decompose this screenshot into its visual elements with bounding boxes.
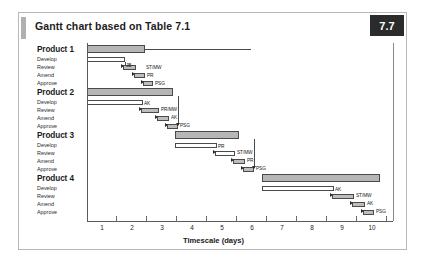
annotation-p3-amend: ST/MW bbox=[237, 150, 253, 155]
task-label-p4-review: Review bbox=[37, 193, 55, 199]
arrow-p2-milestone bbox=[176, 123, 180, 126]
arrow-p4-approve bbox=[361, 209, 364, 213]
x-tick-3 bbox=[176, 216, 177, 222]
arrow-p3-approve bbox=[241, 166, 244, 170]
task-label-p4-approve: Approve bbox=[37, 209, 57, 215]
x-tick-1 bbox=[116, 216, 117, 222]
x-tick-label-10: 10 bbox=[368, 224, 375, 231]
annotation-p2-amend: PR/MW bbox=[161, 107, 177, 112]
arrow-p3-amend bbox=[231, 158, 234, 162]
x-tick-label-7: 7 bbox=[280, 224, 284, 231]
task-label-p3-approve: Approve bbox=[37, 166, 57, 172]
x-tick-label-3: 3 bbox=[160, 224, 164, 231]
gantt-bar-p2-review bbox=[141, 108, 159, 113]
link-p2-vert bbox=[178, 96, 179, 124]
annotation-p2-approve: AK bbox=[171, 115, 177, 120]
annotation-p1-approve: PR bbox=[147, 73, 153, 78]
title-accent-bar bbox=[21, 17, 26, 39]
annotation-p2-end: PSG bbox=[180, 123, 190, 128]
link-p1-summary-right bbox=[145, 49, 251, 50]
x-axis-label: Timescale (days) bbox=[19, 236, 408, 245]
arrow-p4-review bbox=[330, 193, 333, 197]
task-label-p1-review: Review bbox=[37, 64, 55, 70]
task-label-p4-amend: Amend bbox=[37, 201, 54, 207]
gantt-bar-p1-amend bbox=[134, 73, 145, 78]
gantt-bar-p1-summary bbox=[87, 45, 145, 53]
arrow-p3-review bbox=[213, 150, 216, 154]
task-label-p3-develop: Develop bbox=[37, 142, 57, 148]
gantt-bar-p2-amend bbox=[157, 116, 169, 121]
task-label-p2-amend: Amend bbox=[37, 115, 54, 121]
gantt-bar-p3-develop bbox=[175, 143, 217, 148]
x-tick-8 bbox=[326, 216, 327, 222]
group-label-product-1: Product 1 bbox=[37, 45, 74, 54]
group-label-product-2: Product 2 bbox=[37, 88, 74, 97]
task-label-p1-approve: Approve bbox=[37, 80, 57, 86]
annotation-p3-end: PSG bbox=[256, 166, 266, 171]
x-tick-label-6: 6 bbox=[250, 224, 254, 231]
gantt-bar-p3-amend bbox=[233, 159, 245, 164]
x-tick-5 bbox=[236, 216, 237, 222]
task-label-p2-develop: Develop bbox=[37, 99, 57, 105]
task-label-p3-amend: Amend bbox=[37, 158, 54, 164]
task-label-p3-review: Review bbox=[37, 150, 55, 156]
gantt-bar-p4-review bbox=[332, 194, 354, 199]
arrow-p2-amend bbox=[155, 115, 158, 119]
link-p3-vert bbox=[254, 139, 255, 167]
x-tick-label-2: 2 bbox=[130, 224, 134, 231]
arrow-p1-review bbox=[121, 64, 124, 68]
annotation-p1-review: JB bbox=[126, 63, 131, 68]
annotation-p1-end: PSG bbox=[155, 81, 165, 86]
gantt-plot-area: Product 1 Develop Review Amend Approve P… bbox=[19, 43, 408, 251]
gantt-bar-p3-review bbox=[215, 151, 235, 156]
gantt-bar-p1-approve bbox=[143, 81, 153, 86]
arrow-p2-review bbox=[139, 107, 142, 111]
annotation-p3-review: PR bbox=[218, 144, 224, 149]
gantt-bar-p3-summary bbox=[175, 131, 239, 139]
annotation-p4-amend: ST/MW bbox=[356, 193, 372, 198]
x-axis-line bbox=[87, 221, 393, 222]
task-label-p2-approve: Approve bbox=[37, 123, 57, 129]
gantt-bar-p4-summary bbox=[262, 174, 380, 182]
x-tick-9 bbox=[356, 216, 357, 222]
plot-right-edge bbox=[393, 43, 394, 221]
gantt-bar-p4-approve bbox=[363, 210, 374, 215]
task-label-p1-develop: Develop bbox=[37, 56, 57, 62]
task-label-p4-develop: Develop bbox=[37, 185, 57, 191]
x-tick-7 bbox=[296, 216, 297, 222]
arrow-p4-amend bbox=[350, 201, 353, 205]
annotation-p4-review: AK bbox=[335, 187, 341, 192]
annotation-p4-end: PSG bbox=[376, 209, 386, 214]
gantt-bar-p1-develop bbox=[87, 57, 125, 62]
x-tick-4 bbox=[206, 216, 207, 222]
figure-title: Gantt chart based on Table 7.1 bbox=[35, 20, 190, 32]
arrow-p1-approve bbox=[141, 80, 144, 84]
x-tick-label-1: 1 bbox=[100, 224, 104, 231]
x-tick-label-4: 4 bbox=[190, 224, 194, 231]
arrow-p2-approve bbox=[165, 123, 168, 127]
annotation-p3-approve: PR bbox=[247, 158, 253, 163]
group-label-product-3: Product 3 bbox=[37, 131, 74, 140]
group-label-product-4: Product 4 bbox=[37, 174, 74, 183]
gantt-bar-p4-amend bbox=[352, 202, 365, 207]
annotation-p4-approve: AK bbox=[367, 201, 373, 206]
figure-header: Gantt chart based on Table 7.1 7.7 bbox=[19, 13, 406, 43]
gantt-bar-p4-develop bbox=[262, 186, 334, 191]
annotation-p1-amend: ST/MW bbox=[146, 65, 162, 70]
figure-container: Gantt chart based on Table 7.1 7.7 Produ… bbox=[18, 12, 407, 250]
y-axis-line bbox=[87, 43, 88, 221]
gantt-bar-p2-develop bbox=[87, 100, 143, 105]
x-tick-label-5: 5 bbox=[220, 224, 224, 231]
task-label-p1-amend: Amend bbox=[37, 72, 54, 78]
task-label-p2-review: Review bbox=[37, 107, 55, 113]
x-tick-label-8: 8 bbox=[310, 224, 314, 231]
x-tick-10 bbox=[386, 216, 387, 222]
x-tick-2 bbox=[146, 216, 147, 222]
annotation-p2-review: AK bbox=[144, 101, 150, 106]
arrow-p3-milestone bbox=[252, 166, 256, 169]
figure-number-badge: 7.7 bbox=[370, 15, 404, 36]
arrow-p1-amend bbox=[132, 72, 135, 76]
x-tick-6 bbox=[266, 216, 267, 222]
gantt-bar-p2-summary bbox=[87, 88, 173, 96]
x-tick-label-9: 9 bbox=[340, 224, 344, 231]
